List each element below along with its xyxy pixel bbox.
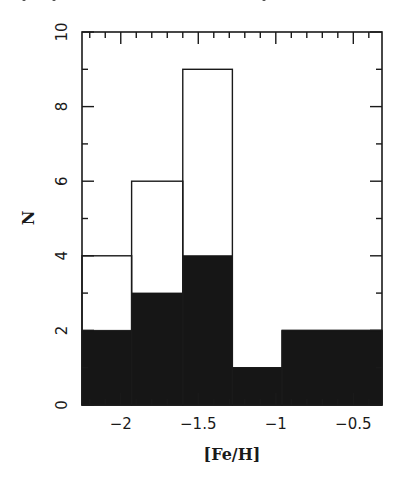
y-tick-label: 2 <box>53 326 71 336</box>
x-tick-label: −1.5 <box>180 415 216 433</box>
histogram-chart: −2−1.5−1−0.5 0246810 [Fe/H] N <box>0 0 394 480</box>
x-tick-labels: −2−1.5−1−0.5 <box>110 415 372 433</box>
x-axis-label: [Fe/H] <box>204 445 261 464</box>
y-tick-labels: 0246810 <box>53 22 71 409</box>
y-tick-label: 10 <box>53 22 71 41</box>
x-tick-label: −0.5 <box>335 415 371 433</box>
x-tick-label: −1 <box>265 415 287 433</box>
y-tick-label: 6 <box>53 176 71 186</box>
x-tick-label: −2 <box>110 415 132 433</box>
y-tick-label: 8 <box>53 102 71 112</box>
y-tick-label: 0 <box>53 400 71 410</box>
y-tick-label: 4 <box>53 251 71 261</box>
y-axis-label: N <box>19 211 38 226</box>
